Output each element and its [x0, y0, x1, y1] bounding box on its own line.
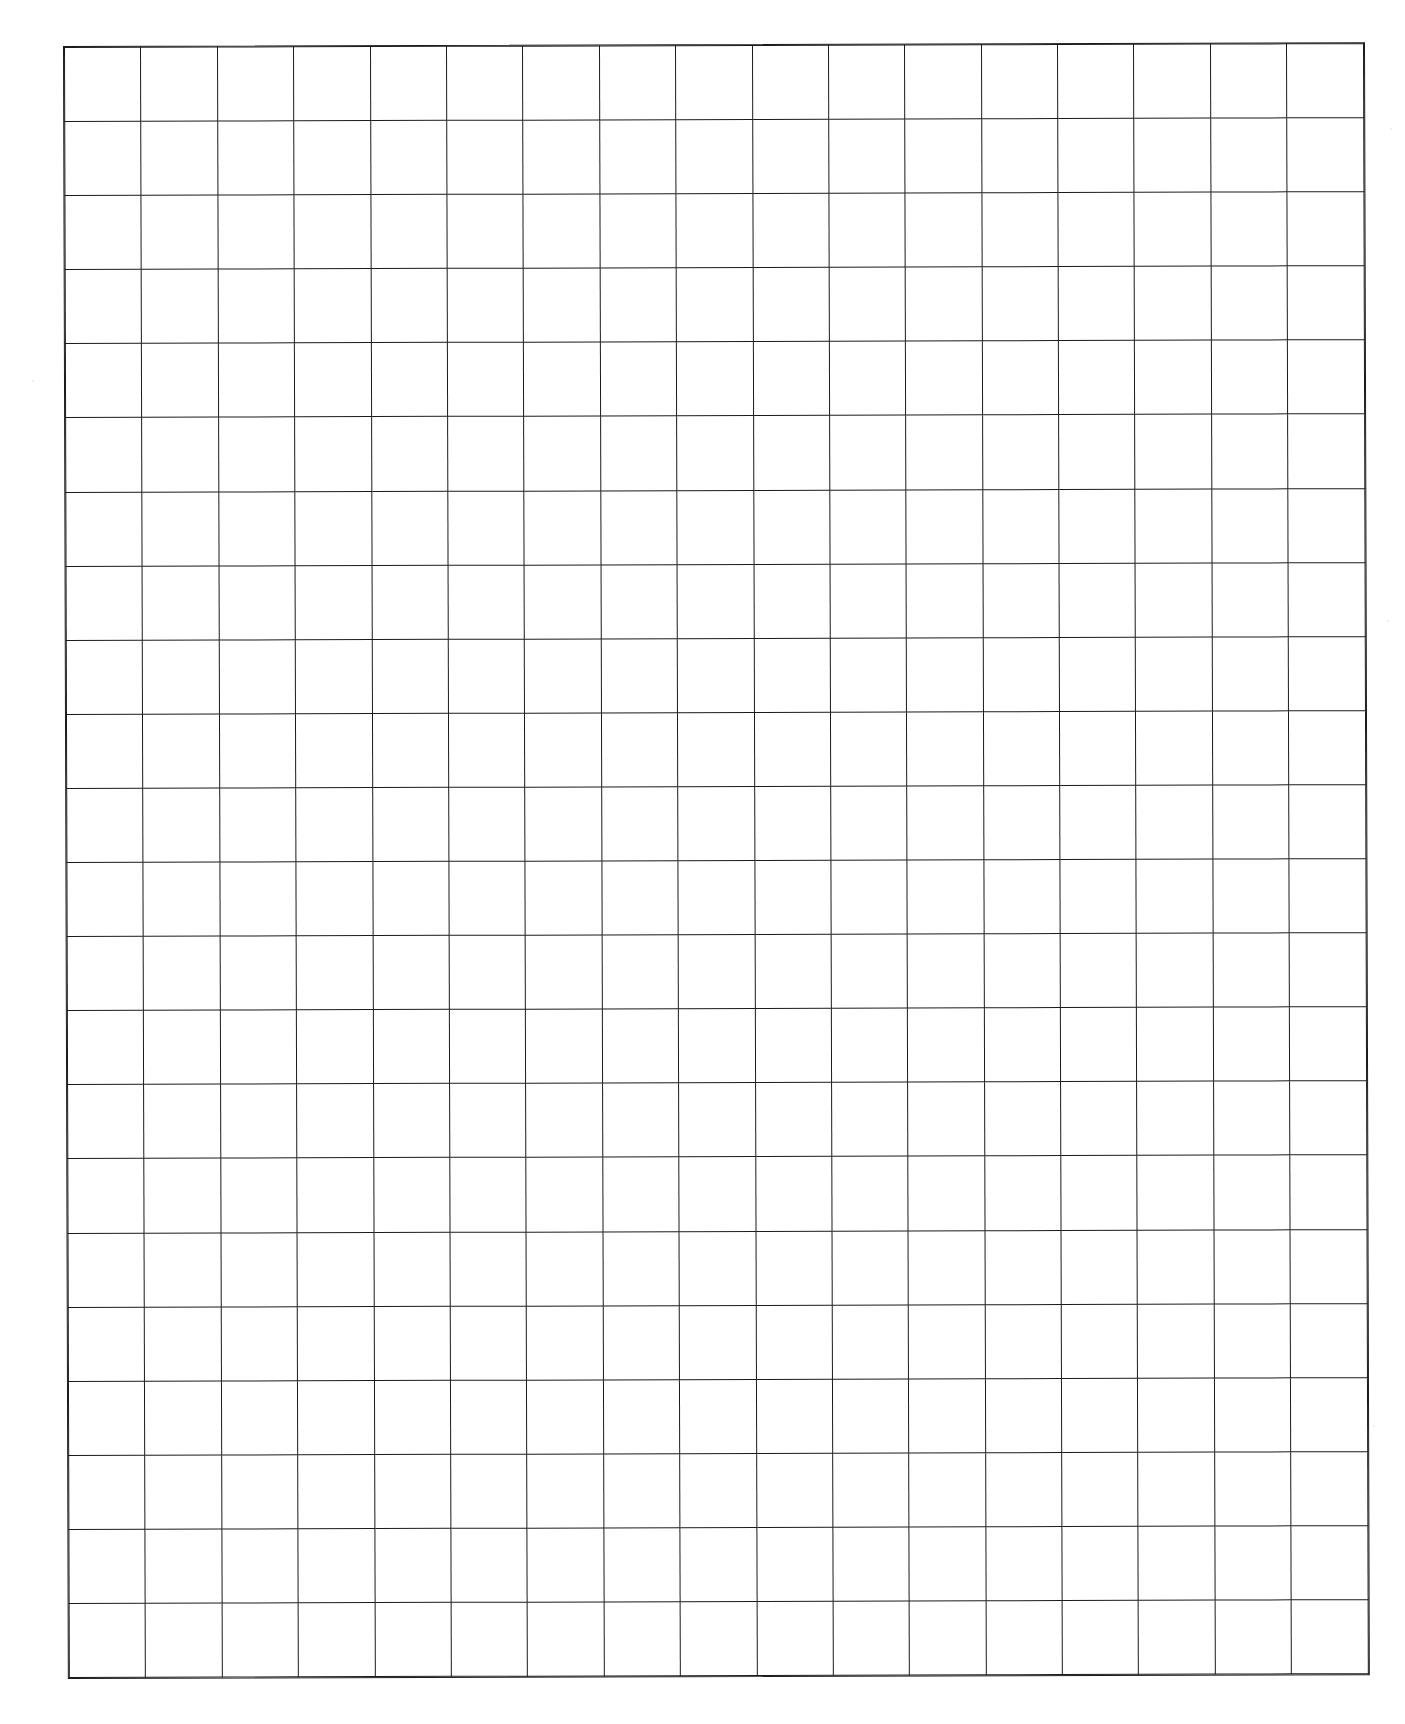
grid-cell[interactable] — [1058, 193, 1135, 267]
grid-cell[interactable] — [985, 1304, 1062, 1378]
grid-cell[interactable] — [905, 45, 982, 119]
grid-cell[interactable] — [604, 1528, 681, 1602]
grid-cell[interactable] — [447, 343, 524, 417]
grid-cell[interactable] — [602, 861, 679, 935]
grid-cell[interactable] — [371, 417, 448, 491]
grid-cell[interactable] — [295, 639, 372, 713]
grid-cell[interactable] — [831, 934, 908, 1008]
grid-cell[interactable] — [1134, 192, 1211, 266]
grid-cell[interactable] — [599, 120, 676, 194]
grid-cell[interactable] — [143, 862, 220, 936]
grid-cell[interactable] — [678, 935, 755, 1009]
grid-cell[interactable] — [603, 1305, 680, 1379]
grid-cell[interactable] — [65, 121, 142, 195]
grid-cell[interactable] — [65, 270, 142, 344]
grid-cell[interactable] — [600, 342, 677, 416]
grid-cell[interactable] — [219, 788, 296, 862]
grid-cell[interactable] — [295, 417, 372, 491]
grid-cell[interactable] — [982, 193, 1059, 267]
grid-cell[interactable] — [449, 787, 526, 861]
grid-cell[interactable] — [679, 1305, 756, 1379]
grid-cell[interactable] — [526, 1083, 603, 1157]
grid-cell[interactable] — [1061, 1156, 1138, 1230]
grid-cell[interactable] — [294, 47, 371, 121]
grid-cell[interactable] — [832, 1379, 909, 1453]
grid-cell[interactable] — [603, 1453, 680, 1527]
grid-cell[interactable] — [1214, 1229, 1291, 1303]
grid-cell[interactable] — [906, 341, 983, 415]
grid-cell[interactable] — [1212, 488, 1289, 562]
grid-cell[interactable] — [374, 1380, 451, 1454]
grid-cell[interactable] — [447, 268, 524, 342]
grid-cell[interactable] — [830, 638, 907, 712]
grid-cell[interactable] — [375, 1602, 452, 1676]
grid-cell[interactable] — [142, 269, 219, 343]
grid-cell[interactable] — [221, 1455, 298, 1529]
grid-cell[interactable] — [829, 341, 906, 415]
grid-cell[interactable] — [1290, 1229, 1367, 1303]
grid-cell[interactable] — [1291, 1451, 1368, 1525]
grid-cell[interactable] — [294, 195, 371, 269]
grid-cell[interactable] — [448, 565, 525, 639]
grid-cell[interactable] — [604, 1602, 681, 1676]
grid-cell[interactable] — [981, 45, 1058, 119]
grid-cell[interactable] — [985, 1378, 1062, 1452]
grid-cell[interactable] — [1059, 489, 1136, 563]
grid-cell[interactable] — [141, 195, 218, 269]
grid-cell[interactable] — [831, 1082, 908, 1156]
grid-cell[interactable] — [753, 416, 830, 490]
grid-cell[interactable] — [219, 491, 296, 565]
grid-cell[interactable] — [370, 120, 447, 194]
grid-cell[interactable] — [754, 638, 831, 712]
grid-cell[interactable] — [1287, 118, 1364, 192]
grid-cell[interactable] — [1134, 118, 1211, 192]
grid-cell[interactable] — [527, 1602, 604, 1676]
grid-cell[interactable] — [1058, 267, 1135, 341]
grid-cell[interactable] — [69, 1603, 146, 1677]
grid-cell[interactable] — [145, 1307, 222, 1381]
grid-cell[interactable] — [527, 1380, 604, 1454]
grid-cell[interactable] — [219, 640, 296, 714]
grid-cell[interactable] — [601, 713, 678, 787]
grid-cell[interactable] — [1059, 563, 1136, 637]
grid-cell[interactable] — [1137, 1081, 1214, 1155]
grid-cell[interactable] — [756, 1231, 833, 1305]
grid-cell[interactable] — [831, 786, 908, 860]
grid-cell[interactable] — [1288, 562, 1365, 636]
grid-cell[interactable] — [1214, 1155, 1291, 1229]
grid-cell[interactable] — [524, 490, 601, 564]
grid-cell[interactable] — [374, 1528, 451, 1602]
grid-cell[interactable] — [67, 936, 144, 1010]
grid-cell[interactable] — [753, 268, 830, 342]
grid-cell[interactable] — [221, 1381, 298, 1455]
grid-cell[interactable] — [1062, 1600, 1139, 1674]
grid-cell[interactable] — [832, 1231, 909, 1305]
grid-cell[interactable] — [908, 1008, 985, 1082]
grid-cell[interactable] — [984, 1008, 1061, 1082]
grid-cell[interactable] — [448, 713, 525, 787]
grid-cell[interactable] — [680, 1601, 757, 1675]
grid-cell[interactable] — [908, 1082, 985, 1156]
grid-cell[interactable] — [221, 1158, 298, 1232]
grid-cell[interactable] — [222, 1603, 299, 1677]
grid-cell[interactable] — [1213, 785, 1290, 859]
grid-cell[interactable] — [220, 1084, 297, 1158]
grid-cell[interactable] — [447, 194, 524, 268]
grid-cell[interactable] — [1136, 785, 1213, 859]
grid-cell[interactable] — [374, 1232, 451, 1306]
grid-cell[interactable] — [217, 47, 294, 121]
grid-cell[interactable] — [372, 713, 449, 787]
grid-cell[interactable] — [449, 1009, 526, 1083]
grid-cell[interactable] — [1135, 340, 1212, 414]
grid-cell[interactable] — [297, 1084, 374, 1158]
grid-cell[interactable] — [448, 491, 525, 565]
grid-cell[interactable] — [143, 640, 220, 714]
grid-cell[interactable] — [450, 1083, 527, 1157]
grid-cell[interactable] — [69, 1455, 146, 1529]
grid-cell[interactable] — [1058, 341, 1135, 415]
grid-cell[interactable] — [1289, 710, 1366, 784]
grid-cell[interactable] — [831, 1008, 908, 1082]
grid-cell[interactable] — [907, 934, 984, 1008]
grid-cell[interactable] — [525, 713, 602, 787]
grid-cell[interactable] — [450, 1158, 527, 1232]
